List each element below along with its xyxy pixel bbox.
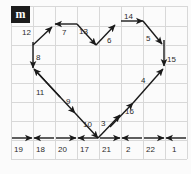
label-seg-10: 10 xyxy=(83,121,92,129)
label-seg-14: 14 xyxy=(124,13,133,21)
logo-badge-m: m xyxy=(11,6,30,23)
label-seg-2: 2 xyxy=(126,146,130,154)
label-seg-3: 3 xyxy=(101,120,105,128)
label-seg-4: 4 xyxy=(141,77,145,85)
label-seg-19: 19 xyxy=(14,146,23,154)
diagram-canvas: 12713614515811910316419182017212221 m xyxy=(0,0,191,174)
label-seg-1: 1 xyxy=(172,146,176,154)
arrow-seg-12 xyxy=(33,27,52,45)
label-seg-7: 7 xyxy=(62,29,66,37)
label-seg-12: 12 xyxy=(22,29,31,37)
label-seg-6: 6 xyxy=(107,37,111,45)
label-seg-11: 11 xyxy=(36,89,44,97)
label-seg-20: 20 xyxy=(58,146,67,154)
arrow-seg-6 xyxy=(96,25,115,45)
label-seg-17: 17 xyxy=(80,146,89,154)
label-seg-22: 22 xyxy=(146,146,155,154)
label-seg-16: 16 xyxy=(125,108,134,116)
label-seg-5: 5 xyxy=(146,35,150,43)
label-seg-18: 18 xyxy=(36,146,45,154)
diagram-svg xyxy=(0,0,191,174)
arrow-seg-4 xyxy=(133,69,163,103)
label-seg-13: 13 xyxy=(79,28,88,36)
label-seg-21: 21 xyxy=(102,146,111,154)
label-seg-8: 8 xyxy=(36,54,40,62)
label-seg-9: 9 xyxy=(66,98,70,106)
label-seg-15: 15 xyxy=(167,56,176,64)
